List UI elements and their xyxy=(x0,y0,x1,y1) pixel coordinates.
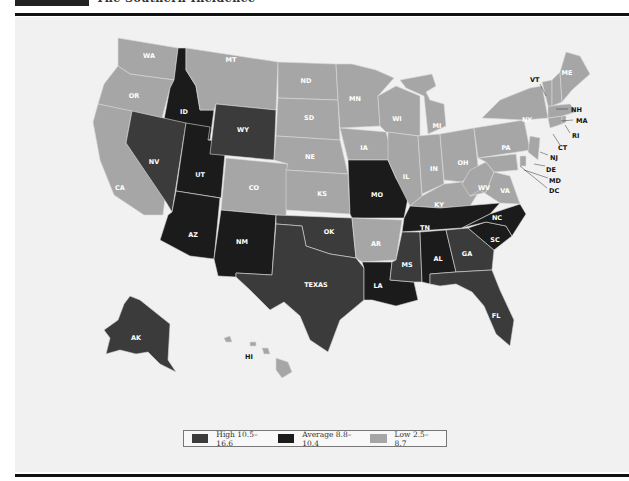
label-de: DE xyxy=(546,166,556,174)
label-nh: NH xyxy=(571,106,582,114)
label-mt: MT xyxy=(226,56,237,64)
label-or: OR xyxy=(129,92,140,100)
state-me[interactable] xyxy=(560,52,590,102)
label-la: LA xyxy=(373,282,382,290)
label-hi: HI xyxy=(245,353,253,361)
label-ak: AK xyxy=(131,334,142,342)
label-ut: UT xyxy=(195,171,205,179)
legend-swatch-high xyxy=(192,434,208,443)
label-in: IN xyxy=(430,165,438,173)
label-ms: MS xyxy=(401,261,412,269)
label-co: CO xyxy=(249,184,260,192)
label-ne: NE xyxy=(305,153,315,161)
label-fl: FL xyxy=(492,312,501,320)
label-ca: CA xyxy=(115,184,125,192)
legend-swatch-average xyxy=(278,434,294,443)
label-ma: MA xyxy=(576,117,588,125)
label-ks: KS xyxy=(317,190,327,198)
label-md: MD xyxy=(549,177,561,185)
state-fl[interactable] xyxy=(430,270,514,346)
state-in[interactable] xyxy=(418,134,444,194)
label-az: AZ xyxy=(188,231,198,239)
legend-label-low: Low 2.5–8.7 xyxy=(395,430,432,448)
legend-label-average: Average 8.8–10.4 xyxy=(302,430,356,448)
label-nv: NV xyxy=(149,158,159,166)
state-ny[interactable] xyxy=(482,86,548,120)
label-mo: MO xyxy=(371,191,383,199)
label-vt: VT xyxy=(530,76,540,84)
label-tx: TEXAS xyxy=(304,281,328,289)
label-al: AL xyxy=(433,255,442,263)
label-ok: OK xyxy=(324,228,336,236)
map-legend: High 10.5–16.6 Average 8.8–10.4 Low 2.5–… xyxy=(183,430,447,447)
label-ga: GA xyxy=(462,250,472,258)
legend-item-average: Average 8.8–10.4 xyxy=(278,430,356,448)
legend-item-low: Low 2.5–8.7 xyxy=(370,430,432,448)
state-pa[interactable] xyxy=(474,120,530,158)
legend-label-high: High 10.5–16.6 xyxy=(216,430,264,448)
label-il: IL xyxy=(403,173,410,181)
label-oh: OH xyxy=(458,159,469,167)
label-mn: MN xyxy=(349,95,361,103)
label-nd: ND xyxy=(301,77,312,85)
legend-item-high: High 10.5–16.6 xyxy=(192,430,264,448)
legend-swatch-low xyxy=(370,434,386,443)
label-ia: IA xyxy=(360,144,367,152)
label-nm: NM xyxy=(236,238,248,246)
label-wa: WA xyxy=(143,52,155,60)
label-wv: WV xyxy=(478,184,490,192)
label-pa: PA xyxy=(501,144,510,152)
label-mi: MI xyxy=(433,122,442,130)
label-sc: SC xyxy=(490,236,500,244)
state-de[interactable] xyxy=(520,156,526,166)
label-va: VA xyxy=(500,187,510,195)
label-wi: WI xyxy=(392,115,402,123)
label-ny: NY xyxy=(522,116,532,124)
label-ar: AR xyxy=(371,240,381,248)
label-sd: SD xyxy=(304,114,315,122)
label-dc: DC xyxy=(549,187,559,195)
label-tn: TN xyxy=(420,224,430,232)
label-ky: KY xyxy=(434,201,444,209)
label-me: ME xyxy=(562,69,573,77)
label-ri: RI xyxy=(572,132,579,140)
label-wy: WY xyxy=(237,126,249,134)
label-nc: NC xyxy=(492,214,502,222)
label-id: ID xyxy=(180,108,188,116)
state-wi[interactable] xyxy=(378,86,420,136)
state-nj[interactable] xyxy=(528,136,540,160)
bottom-rule xyxy=(15,474,629,477)
us-map: WA OR CA ID NV UT AZ MT WY CO NM ND SD N… xyxy=(0,0,629,481)
label-nj: NJ xyxy=(550,154,558,162)
state-ri[interactable] xyxy=(562,116,566,124)
state-hi[interactable] xyxy=(224,336,292,378)
label-ct: CT xyxy=(558,144,568,152)
